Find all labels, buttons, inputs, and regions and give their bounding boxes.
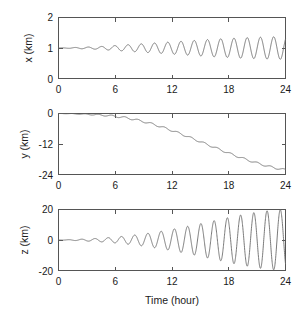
z-panel-xtick-label-12: 12 [166, 276, 178, 287]
x-panel: x (km) 2 1 0 0 6 1 [0, 0, 299, 100]
x-panel-xtick-label-12: 12 [166, 84, 178, 95]
z-panel-xlabel: Time (hour) [145, 294, 199, 306]
y-panel: y (km) 0 -12 -24 0 6 12 18 24 [0, 96, 299, 196]
x-panel-ytick-0: 0 [47, 74, 53, 85]
x-panel-xtick-label-0: 0 [56, 84, 62, 95]
y-panel-xtick-label-0: 0 [56, 180, 62, 191]
x-panel-xtick-label-6: 6 [112, 84, 118, 95]
z-panel-svg: z (km) 20 0 -20 0 6 12 18 24 Time (hour) [0, 192, 299, 311]
y-panel-ytick-neg24: -24 [39, 170, 54, 181]
y-panel-frame [59, 114, 286, 175]
z-panel-xtick-label-24: 24 [280, 276, 292, 287]
z-panel: z (km) 20 0 -20 0 6 12 18 24 Time (hour) [0, 192, 299, 311]
y-panel-curve [59, 114, 286, 170]
y-panel-ylabel: y (km) [18, 129, 30, 158]
y-panel-svg: y (km) 0 -12 -24 0 6 12 18 24 [0, 96, 299, 196]
z-panel-ylabel: z (km) [18, 225, 30, 254]
y-panel-xtick-label-18: 18 [223, 180, 235, 191]
z-panel-xtick-label-0: 0 [56, 276, 62, 287]
x-panel-ytick-1: 1 [47, 43, 53, 54]
z-panel-xtick-label-6: 6 [112, 276, 118, 287]
x-panel-ylabel: x (km) [22, 33, 34, 62]
z-panel-curve [59, 210, 286, 270]
y-panel-xtick-label-6: 6 [112, 180, 118, 191]
figure-container: x (km) 2 1 0 0 6 1 [0, 0, 299, 311]
y-panel-xtick-label-12: 12 [166, 180, 178, 191]
x-panel-ytick-2: 2 [47, 12, 53, 23]
y-panel-ytick-0: 0 [47, 108, 53, 119]
x-panel-curve [59, 37, 286, 59]
y-panel-xtick-label-24: 24 [280, 180, 292, 191]
z-panel-frame [59, 210, 286, 271]
z-panel-ytick-20: 20 [42, 204, 54, 215]
y-panel-ytick-neg12: -12 [39, 139, 54, 150]
z-panel-ytick-neg20: -20 [39, 266, 54, 277]
x-panel-svg: x (km) 2 1 0 0 6 1 [0, 0, 299, 100]
x-panel-xtick-label-24: 24 [280, 84, 292, 95]
x-panel-xtick-label-18: 18 [223, 84, 235, 95]
z-panel-xtick-label-18: 18 [223, 276, 235, 287]
z-panel-ytick-0: 0 [47, 235, 53, 246]
